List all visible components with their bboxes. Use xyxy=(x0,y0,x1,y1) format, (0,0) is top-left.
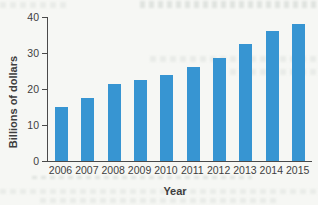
y-tick-label: 40 xyxy=(13,11,39,23)
y-tick-mark xyxy=(42,17,47,19)
bleed-through-artifact xyxy=(32,176,252,179)
bar-chart-figure: Billions of dollars 010203040 2006200720… xyxy=(0,0,318,205)
x-axis-title: Year xyxy=(163,185,186,197)
bar-2014 xyxy=(266,31,279,161)
bar-2010 xyxy=(160,75,173,161)
plot-area xyxy=(47,17,312,162)
bar-2015 xyxy=(292,24,305,161)
bar-2007 xyxy=(81,98,94,161)
x-tick-label: 2015 xyxy=(281,164,315,176)
bleed-through-artifact xyxy=(0,189,318,194)
y-tick-mark xyxy=(42,53,47,55)
bar-2011 xyxy=(187,67,200,161)
bar-2009 xyxy=(134,80,147,161)
y-tick-mark xyxy=(42,161,47,163)
bleed-through-artifact xyxy=(0,2,70,8)
bar-2012 xyxy=(213,58,226,161)
y-tick-mark xyxy=(42,125,47,127)
bleed-through-artifact xyxy=(140,1,318,8)
bar-2013 xyxy=(239,44,252,161)
y-tick-label: 20 xyxy=(13,83,39,95)
bar-2006 xyxy=(55,107,68,161)
y-tick-label: 0 xyxy=(13,155,39,167)
bar-2008 xyxy=(108,84,121,161)
y-axis-title: Billions of dollars xyxy=(7,56,19,148)
y-tick-label: 10 xyxy=(13,119,39,131)
y-tick-label: 30 xyxy=(13,47,39,59)
y-tick-mark xyxy=(42,89,47,91)
bleed-through-artifact xyxy=(40,198,280,203)
